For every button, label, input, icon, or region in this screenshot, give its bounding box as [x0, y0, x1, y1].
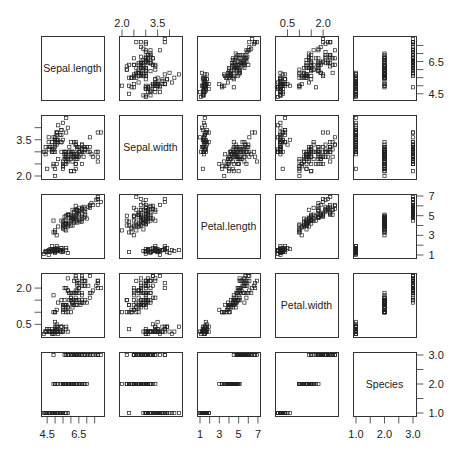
data-point	[137, 81, 140, 84]
data-point	[354, 116, 357, 119]
data-point	[99, 353, 102, 356]
data-point	[69, 170, 72, 173]
data-point	[99, 200, 102, 203]
data-point	[158, 353, 161, 356]
data-point	[61, 121, 64, 124]
data-point	[298, 382, 301, 385]
data-point	[132, 214, 135, 217]
y-tick-label-petal-length: 7	[429, 190, 435, 202]
data-point	[120, 382, 123, 385]
y-tick-label-petal-length: 5	[429, 210, 435, 222]
data-point	[96, 203, 99, 206]
data-point	[411, 37, 414, 40]
data-point	[66, 126, 69, 129]
data-point	[125, 214, 128, 217]
data-point	[149, 94, 152, 97]
data-point	[149, 70, 152, 73]
data-point	[125, 224, 128, 227]
data-point	[125, 382, 128, 385]
x-tick-label-species: 3.0	[405, 428, 420, 440]
data-point	[237, 170, 240, 173]
data-point	[88, 136, 91, 139]
data-point	[120, 311, 123, 314]
data-point	[52, 294, 55, 297]
data-point	[298, 382, 301, 385]
data-point	[99, 131, 102, 134]
data-point	[329, 160, 332, 163]
data-point	[120, 229, 123, 232]
data-point	[307, 81, 310, 84]
data-point	[139, 197, 142, 200]
data-point	[329, 41, 332, 44]
data-point	[177, 411, 180, 414]
data-point	[298, 382, 301, 385]
data-point	[144, 78, 147, 81]
data-point	[251, 37, 254, 40]
data-point	[255, 160, 258, 163]
data-point	[177, 249, 180, 252]
data-point	[163, 353, 166, 356]
y-tick-label-species: 3.0	[429, 349, 444, 361]
data-point	[298, 174, 301, 177]
data-point	[154, 91, 157, 94]
data-point	[163, 37, 166, 40]
data-point	[132, 57, 135, 60]
data-point	[205, 73, 208, 76]
data-point	[135, 195, 138, 198]
data-point	[74, 204, 77, 207]
x-tick-label-petal-width: 0.5	[280, 17, 295, 29]
data-point	[326, 131, 329, 134]
data-point	[99, 287, 102, 290]
data-point	[69, 141, 72, 144]
x-tick-label-species: 1.0	[348, 428, 363, 440]
x-tick-label-petal-length: 7	[255, 428, 261, 440]
y-tick-label-petal-width: 0.5	[16, 318, 31, 330]
data-point	[411, 170, 414, 173]
data-point	[314, 86, 317, 89]
data-point	[128, 251, 131, 254]
data-point	[411, 131, 414, 134]
y-tick-label-sepal-length: 6.5	[429, 56, 444, 68]
panel-frame-species-vs-sepal-length	[42, 353, 105, 417]
data-point	[60, 299, 63, 302]
data-point	[166, 78, 169, 81]
data-point	[135, 279, 138, 282]
data-point	[243, 301, 246, 304]
y-tick-label-species: 1.0	[429, 407, 444, 419]
data-point	[60, 150, 63, 153]
data-point	[128, 411, 131, 414]
y-tick-label-sepal-width: 3.5	[16, 134, 31, 146]
data-point	[60, 325, 63, 328]
data-point	[88, 296, 91, 299]
data-point	[50, 141, 53, 144]
data-point	[52, 353, 55, 356]
data-point	[158, 49, 161, 52]
data-point	[132, 63, 135, 66]
panel-frame-petal-length-vs-species	[354, 195, 417, 259]
data-point	[298, 382, 301, 385]
data-point	[177, 73, 180, 76]
data-point	[96, 160, 99, 163]
data-point	[329, 195, 332, 198]
data-point	[65, 247, 68, 250]
data-point	[69, 311, 72, 314]
data-point	[163, 287, 166, 290]
data-point	[248, 41, 251, 44]
data-point	[305, 167, 308, 170]
data-point	[65, 131, 68, 134]
data-point	[135, 229, 138, 232]
x-tick-label-sepal-width: 3.5	[150, 17, 165, 29]
data-point	[139, 55, 142, 58]
data-point	[139, 41, 142, 44]
data-point	[298, 382, 301, 385]
x-tick-label-petal-length: 5	[236, 428, 242, 440]
data-point	[254, 155, 257, 158]
data-point	[149, 49, 152, 52]
y-tick-label-petal-length: 3	[429, 229, 435, 241]
data-point	[298, 382, 301, 385]
diagonal-label-sepal-width: Sepal.width	[123, 141, 177, 153]
diagonal-label-species: Species	[366, 378, 403, 390]
data-point	[125, 68, 128, 71]
data-point	[223, 160, 226, 163]
data-point	[87, 284, 90, 287]
